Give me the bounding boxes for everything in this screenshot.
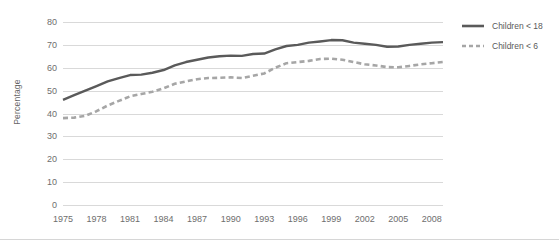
bottom-border-rule bbox=[0, 239, 559, 240]
y-axis-tick-label: 10 bbox=[47, 177, 57, 187]
x-axis-tick-label: 1996 bbox=[288, 214, 308, 224]
y-axis-tick-label: 0 bbox=[52, 200, 57, 210]
x-axis-tick-label: 1975 bbox=[53, 214, 73, 224]
y-axis-tick-label: 80 bbox=[47, 17, 57, 27]
x-axis-tick-label: 2008 bbox=[422, 214, 442, 224]
x-axis-tick-label: 2005 bbox=[388, 214, 408, 224]
x-axis-tick-label: 1987 bbox=[187, 214, 207, 224]
y-axis-tick-label: 70 bbox=[47, 40, 57, 50]
y-axis-tick-label: 50 bbox=[47, 86, 57, 96]
legend-label: Children < 6 bbox=[492, 41, 538, 51]
legend-swatch-solid-line bbox=[462, 21, 484, 31]
series-lines bbox=[63, 22, 443, 205]
line-chart: Percentage 01020304050607080 19751978198… bbox=[0, 0, 559, 249]
x-axis-tick-label: 1978 bbox=[87, 214, 107, 224]
y-axis-tick-label: 40 bbox=[47, 109, 57, 119]
y-axis-tick-label: 20 bbox=[47, 154, 57, 164]
legend-swatch-dashed-line bbox=[462, 41, 484, 51]
legend-label: Children < 18 bbox=[492, 21, 543, 31]
legend-item-children-under-18: Children < 18 bbox=[462, 17, 558, 34]
y-axis-tick-label: 30 bbox=[47, 131, 57, 141]
series-line bbox=[63, 59, 443, 118]
legend-item-children-under-6: Children < 6 bbox=[462, 37, 558, 54]
y-axis-title: Percentage bbox=[10, 57, 24, 147]
x-axis-tick-label: 1999 bbox=[321, 214, 341, 224]
plot-area: 01020304050607080 1975197819811984198719… bbox=[63, 22, 443, 205]
x-axis-tick-label: 1981 bbox=[120, 214, 140, 224]
x-axis-tick-label: 2002 bbox=[355, 214, 375, 224]
x-axis-tick-label: 1984 bbox=[154, 214, 174, 224]
y-axis-tick-label: 60 bbox=[47, 63, 57, 73]
chart-legend: Children < 18 Children < 6 bbox=[462, 17, 558, 57]
gridline bbox=[63, 205, 443, 206]
x-axis-tick-label: 1990 bbox=[221, 214, 241, 224]
x-axis-tick-label: 1993 bbox=[254, 214, 274, 224]
series-line bbox=[63, 40, 443, 100]
